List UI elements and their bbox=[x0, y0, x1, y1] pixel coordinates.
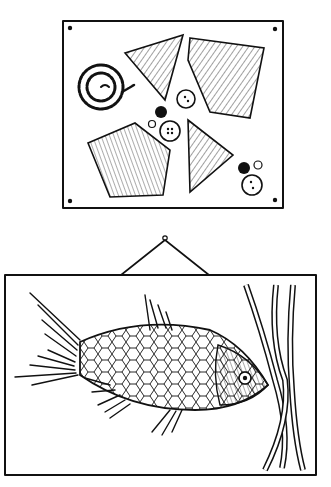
fabric-triangle-1 bbox=[125, 35, 183, 100]
fabric-triangle-2 bbox=[188, 120, 233, 192]
craft-board bbox=[63, 21, 283, 208]
hanging-string bbox=[121, 240, 209, 275]
pin-icon bbox=[273, 198, 277, 202]
pin-icon bbox=[273, 27, 277, 31]
pin-icon bbox=[68, 26, 72, 30]
pin-icon bbox=[68, 199, 72, 203]
illustration bbox=[0, 0, 331, 487]
coiled-rope bbox=[79, 65, 134, 109]
fish-picture bbox=[5, 236, 316, 475]
fabric-pentagon bbox=[88, 123, 170, 197]
fabric-quad bbox=[188, 38, 264, 118]
fish bbox=[15, 293, 268, 435]
